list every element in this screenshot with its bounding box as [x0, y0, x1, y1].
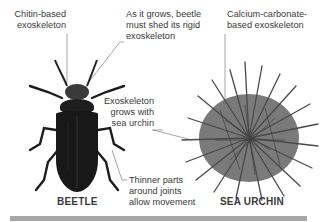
annotation-line: must shed its rigid [126, 20, 201, 31]
annotation-line: Chitin-based [12, 9, 66, 20]
annotation-shed: As it grows, beetle must shed its rigid … [126, 9, 201, 42]
annotation-line: based exoskeleton [227, 20, 307, 31]
beetle-title: BEETLE [57, 196, 98, 207]
annotation-line: allow movement [129, 197, 195, 208]
sea-urchin-title: SEA URCHIN [220, 196, 284, 207]
annotation-line: exoskeleton [126, 31, 201, 42]
bottom-divider-bar [10, 216, 307, 221]
annotation-line: sea urchin [100, 118, 154, 129]
annotation-calcium: Calcium-carbonate- based exoskeleton [227, 9, 307, 31]
sea-urchin-illustration [182, 62, 318, 200]
annotation-chitin: Chitin-based exoskeleton [12, 9, 66, 31]
annotation-grows: Exoskeleton grows with sea urchin [100, 96, 154, 129]
annotation-line: exoskeleton [12, 20, 66, 31]
annotation-line: Thinner parts [129, 175, 195, 186]
annotation-line: around joints [129, 186, 195, 197]
annotation-line: grows with [100, 107, 154, 118]
annotation-line: As it grows, beetle [126, 9, 201, 20]
annotation-line: Calcium-carbonate- [227, 9, 307, 20]
annotation-joints: Thinner parts around joints allow moveme… [129, 175, 195, 208]
annotation-line: Exoskeleton [100, 96, 154, 107]
